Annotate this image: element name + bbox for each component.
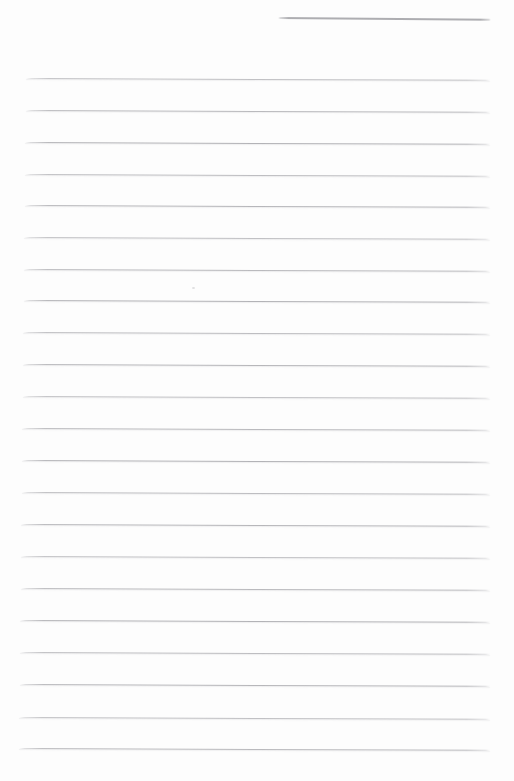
notebook-page [0, 0, 514, 781]
ruled-line [21, 524, 490, 527]
ruled-line [26, 78, 490, 81]
ruled-line [22, 460, 490, 463]
ruled-line [23, 396, 490, 399]
header-line [278, 17, 491, 20]
ruled-line [24, 300, 490, 303]
ruled-line [20, 684, 490, 687]
ruled-line [21, 556, 490, 559]
ruled-line [20, 620, 490, 623]
ruled-line [19, 748, 490, 751]
ruled-line [21, 588, 490, 591]
ruled-line [20, 652, 490, 655]
ruled-line [25, 174, 490, 177]
ruled-line [24, 269, 490, 272]
ruled-line [23, 332, 490, 335]
ruled-line [23, 364, 490, 367]
ruled-line [24, 237, 490, 240]
ruled-line [22, 428, 490, 431]
ruled-line [25, 205, 490, 208]
ruled-line [26, 110, 490, 113]
scan-speck [192, 287, 195, 289]
ruled-line [22, 492, 490, 495]
ruled-line [19, 717, 490, 720]
ruled-line [25, 142, 490, 145]
